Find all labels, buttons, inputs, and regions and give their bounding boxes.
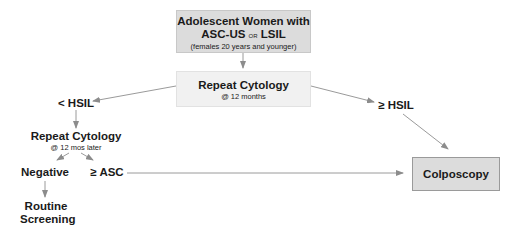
node-ge-hsil: ≥ HSIL [376, 99, 416, 112]
node-negative: Negative [20, 166, 70, 179]
or-text: or [249, 31, 258, 40]
arrow-ge-hsil-to-colposcopy [403, 114, 448, 149]
node-repeat2-title: Repeat Cytology [26, 130, 126, 143]
node-routine-screening: Routine Screening [20, 200, 72, 226]
node-repeat1-title: Repeat Cytology [177, 79, 310, 92]
arrow-repeat2-to-negative [57, 153, 69, 160]
arrow-repeat1-to-lt-hsil [93, 86, 176, 101]
node-lt-hsil: < HSIL [56, 97, 96, 110]
node-routine-line2: Screening [20, 213, 72, 226]
node-adolescent-women: Adolescent Women with ASC-US or LSIL (fe… [176, 10, 311, 53]
asc-us-text: ASC-US [201, 28, 245, 40]
node-repeat-cytology-12-months: Repeat Cytology @ 12 months [176, 71, 311, 107]
node-start-line1: Adolescent Women with [177, 15, 310, 28]
lsil-text: LSIL [261, 28, 286, 40]
node-ge-asc: ≥ ASC [89, 166, 125, 179]
arrow-repeat1-to-ge-hsil [311, 86, 374, 102]
node-repeat2-subtitle: @ 12 mos later [36, 143, 116, 152]
arrow-repeat2-to-ge-asc [81, 153, 93, 160]
node-repeat1-subtitle: @ 12 months [177, 92, 310, 101]
node-routine-line1: Routine [20, 200, 72, 213]
node-colposcopy-label: Colposcopy [413, 168, 499, 181]
node-colposcopy: Colposcopy [412, 157, 500, 191]
node-start-line3: (females 20 years and younger) [177, 42, 310, 51]
node-start-line2: ASC-US or LSIL [177, 28, 310, 42]
